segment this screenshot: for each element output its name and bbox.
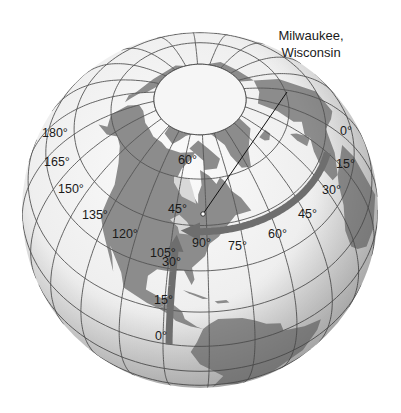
longitude-label: 120° <box>112 227 138 241</box>
longitude-label: 75° <box>228 239 247 253</box>
longitude-label: 0° <box>340 124 352 138</box>
latitude-label: 45° <box>168 202 187 216</box>
globe <box>22 32 378 388</box>
callout-label-line1: Milwaukee, <box>278 28 343 43</box>
longitude-label: 135° <box>82 208 108 222</box>
longitude-label: 45° <box>298 207 317 221</box>
globe-diagram: 180°165°150°135°120°105°90°75°60°45°30°1… <box>0 0 401 413</box>
longitude-label: 90° <box>192 236 211 250</box>
latitude-label: 15° <box>154 293 173 307</box>
latitude-label: 0° <box>155 329 167 343</box>
latitude-label: 60° <box>178 153 197 167</box>
longitude-label: 165° <box>44 155 70 169</box>
globe-shading <box>22 32 378 388</box>
callout-label-line2: Wisconsin <box>281 45 340 60</box>
longitude-label: 30° <box>322 183 341 197</box>
longitude-label: 15° <box>336 157 355 171</box>
longitude-label: 150° <box>58 182 84 196</box>
milwaukee-marker <box>201 212 205 216</box>
longitude-label: 180° <box>42 126 68 140</box>
latitude-label: 30° <box>162 255 181 269</box>
longitude-label: 60° <box>268 227 287 241</box>
